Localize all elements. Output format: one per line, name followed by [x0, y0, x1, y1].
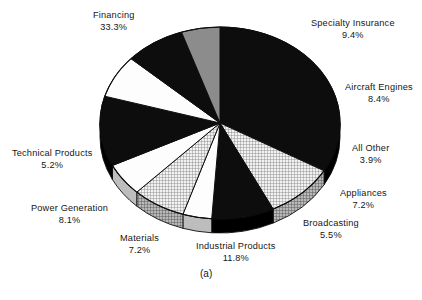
- pie-label-broadcasting: Broadcasting5.5%: [303, 218, 359, 241]
- pie-label-value: 11.8%: [196, 253, 276, 265]
- pie-label-industrial-products: Industrial Products11.8%: [196, 241, 276, 264]
- pie-label-value: 9.4%: [311, 30, 395, 42]
- pie-label-name: Technical Products: [12, 148, 92, 160]
- pie-slices-group: [100, 27, 340, 219]
- pie-label-name: Industrial Products: [196, 241, 276, 253]
- pie-label-name: Specialty Insurance: [311, 18, 395, 30]
- pie-label-financing: Financing33.3%: [93, 10, 135, 33]
- pie-label-value: 8.4%: [345, 94, 413, 106]
- pie-label-materials: Materials7.2%: [120, 233, 159, 256]
- pie-label-name: Aircraft Engines: [345, 82, 413, 94]
- pie-label-name: Appliances: [340, 188, 387, 200]
- pie-label-appliances: Appliances7.2%: [340, 188, 387, 211]
- pie-chart-figure: Financing33.3%Specialty Insurance9.4%Air…: [0, 0, 422, 300]
- pie-label-specialty-insurance: Specialty Insurance9.4%: [311, 18, 395, 41]
- pie-label-name: All Other: [352, 143, 389, 155]
- pie-label-power-generation: Power Generation8.1%: [31, 203, 108, 226]
- pie-label-technical-products: Technical Products5.2%: [12, 148, 92, 171]
- pie-label-name: Financing: [93, 10, 135, 22]
- pie-label-value: 5.2%: [12, 160, 92, 172]
- pie-label-value: 7.2%: [120, 245, 159, 257]
- pie-label-name: Power Generation: [31, 203, 108, 215]
- pie-label-value: 7.2%: [340, 200, 387, 212]
- pie-label-name: Materials: [120, 233, 159, 245]
- pie-label-aircraft-engines: Aircraft Engines8.4%: [345, 82, 413, 105]
- figure-caption: (a): [200, 268, 212, 279]
- pie-label-value: 5.5%: [303, 230, 359, 242]
- pie-label-value: 3.9%: [352, 155, 389, 167]
- pie-label-all-other: All Other3.9%: [352, 143, 389, 166]
- pie-label-value: 8.1%: [31, 215, 108, 227]
- pie-label-value: 33.3%: [93, 22, 135, 34]
- pie-label-name: Broadcasting: [303, 218, 359, 230]
